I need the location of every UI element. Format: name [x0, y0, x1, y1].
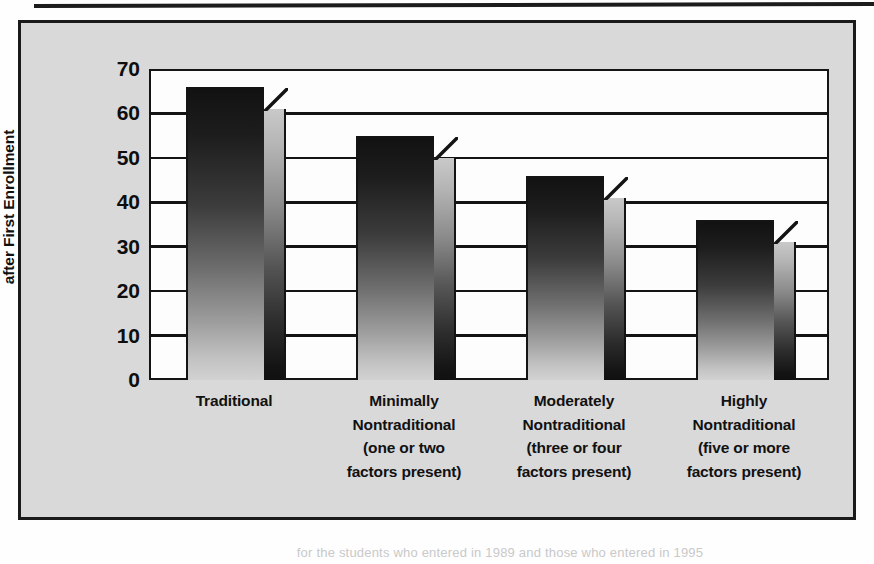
- ghost-bleed-text: for the students who entered in 1989 and…: [150, 545, 850, 560]
- y-axis-tick-label: 40: [117, 190, 140, 214]
- bar-side-face: [434, 158, 456, 380]
- bar: [696, 220, 796, 380]
- bar-top-face: [264, 87, 286, 109]
- x-category-label-line: Nontraditional: [693, 413, 796, 437]
- bar: [356, 136, 456, 380]
- x-category-label-line: factors present): [517, 460, 632, 484]
- x-category-label-line: Traditional: [196, 389, 273, 413]
- bar-front-face: [356, 136, 434, 380]
- chart-figure: Percentage Having Any Type of Degree 5 Y…: [18, 20, 856, 520]
- x-category-label-line: Nontraditional: [523, 413, 626, 437]
- y-axis-tick-label: 30: [117, 235, 140, 259]
- y-axis-tick-label: 50: [117, 146, 140, 170]
- bar: [526, 176, 626, 380]
- bar: [186, 87, 286, 380]
- x-category-label-line: factors present): [347, 460, 462, 484]
- x-axis-category-labels: TraditionalMinimallyNontraditional(one o…: [149, 387, 829, 517]
- x-category-label-line: factors present): [687, 460, 802, 484]
- bar-top-face: [774, 220, 796, 242]
- bar-side-face: [774, 242, 796, 380]
- x-category-label: HighlyNontraditional(five or morefactors…: [659, 387, 829, 517]
- y-axis-tick-label: 20: [117, 279, 140, 303]
- x-category-label-line: Moderately: [534, 389, 614, 413]
- bar-front-face: [526, 176, 604, 380]
- y-axis-tick-label: 0: [128, 368, 140, 392]
- y-axis-tick-label: 10: [117, 324, 140, 348]
- y-axis-tick-label: 60: [117, 101, 140, 125]
- x-category-label-line: Nontraditional: [353, 413, 456, 437]
- bar-top-face: [434, 136, 456, 158]
- page-top-rule: [34, 2, 874, 8]
- x-category-label-line: (one or two: [363, 436, 445, 460]
- bar-top-face: [604, 176, 626, 198]
- bar-front-face: [186, 87, 264, 380]
- y-axis-tick-label: 70: [117, 57, 140, 81]
- x-category-label-line: Highly: [721, 389, 767, 413]
- y-axis-title-line-3: after First Enrollment: [0, 130, 18, 285]
- scanned-page: Percentage Having Any Type of Degree 5 Y…: [0, 0, 874, 564]
- plot-area: 010203040506070: [149, 69, 829, 380]
- x-category-label: ModeratelyNontraditional(three or fourfa…: [489, 387, 659, 517]
- bar-side-face: [264, 109, 286, 380]
- x-category-label-line: (three or four: [526, 436, 621, 460]
- x-category-label-line: Minimally: [369, 389, 438, 413]
- x-category-label: MinimallyNontraditional(one or twofactor…: [319, 387, 489, 517]
- bar-front-face: [696, 220, 774, 380]
- x-category-label: Traditional: [149, 387, 319, 517]
- bar-side-face: [604, 198, 626, 380]
- x-category-label-line: (five or more: [698, 436, 790, 460]
- y-axis-title: Percentage Having Any Type of Degree 5 Y…: [0, 57, 19, 357]
